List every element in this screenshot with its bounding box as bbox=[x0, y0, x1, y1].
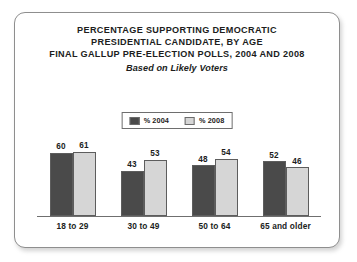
bar-group: 524665 and older bbox=[250, 137, 321, 216]
bar-value-label: 52 bbox=[263, 151, 286, 160]
bar-slot: 53 bbox=[144, 137, 167, 216]
plot-area: 606118 to 29435330 to 49485450 to 645246… bbox=[37, 138, 321, 217]
bar-group: 606118 to 29 bbox=[37, 137, 108, 216]
x-axis-line bbox=[37, 216, 321, 217]
legend-swatch-2008 bbox=[185, 117, 195, 125]
bar-slot: 52 bbox=[263, 137, 286, 216]
bar-value-label: 43 bbox=[121, 160, 144, 169]
legend-entry-2004: % 2004 bbox=[130, 116, 169, 125]
bar-value-label: 61 bbox=[73, 141, 96, 150]
bar-slot: 43 bbox=[121, 137, 144, 216]
bar-slot: 46 bbox=[286, 137, 309, 216]
bar-slot: 60 bbox=[50, 137, 73, 216]
bar-pair: 4353 bbox=[108, 137, 179, 216]
bar-slot: 48 bbox=[192, 137, 215, 216]
legend-entry-2008: % 2008 bbox=[185, 116, 224, 125]
legend-swatch-2004 bbox=[130, 117, 140, 125]
bar-group: 485450 to 64 bbox=[179, 137, 250, 216]
bar-pair: 5246 bbox=[250, 137, 321, 216]
chart-title-block: PERCENTAGE SUPPORTING DEMOCRATIC PRESIDE… bbox=[15, 24, 339, 75]
bar[interactable] bbox=[263, 161, 286, 216]
bar[interactable] bbox=[144, 160, 167, 216]
bar-slot: 61 bbox=[73, 137, 96, 216]
x-axis-category-label: 65 and older bbox=[250, 221, 321, 231]
x-axis-category-label: 18 to 29 bbox=[37, 221, 108, 231]
bar[interactable] bbox=[192, 165, 215, 216]
bar-group: 435330 to 49 bbox=[108, 137, 179, 216]
chart-title-line-2: PRESIDENTIAL CANDIDATE, BY AGE bbox=[15, 36, 339, 48]
bar[interactable] bbox=[121, 171, 144, 216]
legend-label-2004: % 2004 bbox=[144, 116, 169, 125]
x-axis-category-label: 50 to 64 bbox=[179, 221, 250, 231]
chart-title-line-1: PERCENTAGE SUPPORTING DEMOCRATIC bbox=[15, 24, 339, 36]
bar-value-label: 53 bbox=[144, 149, 167, 158]
bar[interactable] bbox=[50, 153, 73, 216]
chart-legend: % 2004 % 2008 bbox=[122, 112, 233, 129]
bar-pair: 4854 bbox=[179, 137, 250, 216]
bar[interactable] bbox=[73, 152, 96, 216]
bar-value-label: 48 bbox=[192, 155, 215, 164]
bar[interactable] bbox=[286, 167, 309, 215]
bar[interactable] bbox=[215, 159, 238, 216]
figure-card: PERCENTAGE SUPPORTING DEMOCRATIC PRESIDE… bbox=[14, 12, 340, 248]
bar-slot: 54 bbox=[215, 137, 238, 216]
bar-value-label: 54 bbox=[215, 148, 238, 157]
bar-value-label: 60 bbox=[50, 142, 73, 151]
bar-value-label: 46 bbox=[286, 157, 309, 166]
x-axis-category-label: 30 to 49 bbox=[108, 221, 179, 231]
chart-subtitle: Based on Likely Voters bbox=[15, 61, 339, 75]
chart-title-line-3: FINAL GALLUP PRE-ELECTION POLLS, 2004 AN… bbox=[15, 48, 339, 60]
bar-pair: 6061 bbox=[37, 137, 108, 216]
legend-label-2008: % 2008 bbox=[199, 116, 224, 125]
